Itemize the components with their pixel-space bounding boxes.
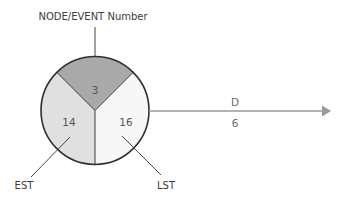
lst-value: 16	[119, 116, 133, 128]
est-value: 14	[62, 116, 76, 128]
est-label: EST	[15, 180, 35, 191]
lst-label: LST	[157, 180, 176, 191]
activity-duration: 6	[232, 117, 239, 129]
activity-name: D	[231, 96, 239, 108]
node-circle	[41, 56, 149, 164]
node-event-number-label: NODE/EVENT Number	[38, 11, 148, 22]
node-diagram: NODE/EVENT Number 3 14 16 EST LST D 6	[0, 0, 347, 200]
arrowhead-icon	[322, 106, 331, 117]
est-leader-line	[31, 137, 70, 177]
activity-arrow	[149, 106, 331, 117]
lst-leader-line	[122, 136, 161, 175]
event-number-value: 3	[92, 84, 99, 96]
